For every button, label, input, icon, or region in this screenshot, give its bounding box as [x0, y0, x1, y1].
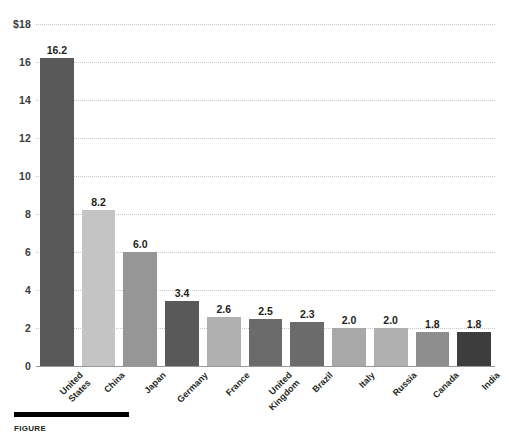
bar-slot: 8.2	[78, 24, 120, 366]
y-axis-tick-label: 16	[19, 56, 31, 68]
gridline	[36, 366, 495, 367]
y-axis-tick-label: 8	[25, 208, 31, 220]
x-axis-category-label: United Kingdom	[257, 370, 301, 414]
x-axis-category-label: Brazil	[299, 370, 336, 407]
x-axis-category-label: China	[90, 370, 127, 407]
x-axis-category-label: Germany	[173, 370, 210, 407]
bar-slot: 2.3	[286, 24, 328, 366]
bar-value-label: 2.3	[286, 308, 328, 320]
y-axis-tick-label: 14	[19, 94, 31, 106]
bar[interactable]	[374, 328, 408, 366]
bar-value-label: 8.2	[78, 196, 120, 208]
bar-value-label: 2.5	[245, 305, 287, 317]
x-axis-category-label: Canada	[424, 370, 461, 407]
bar-value-label: 16.2	[36, 44, 78, 56]
bar[interactable]	[290, 322, 324, 366]
bar-slot: 6.0	[119, 24, 161, 366]
bar-value-label: 2.0	[328, 314, 370, 326]
bar[interactable]	[332, 328, 366, 366]
bar[interactable]	[457, 332, 491, 366]
bar-slot: 16.2	[36, 24, 78, 366]
bar-slot: 2.0	[328, 24, 370, 366]
bar[interactable]	[165, 301, 199, 366]
y-axis-tick-label: 6	[25, 246, 31, 258]
y-axis-tick-label: 4	[25, 284, 31, 296]
y-axis-tick-label: 10	[19, 170, 31, 182]
x-axis-category-label: Japan	[132, 370, 169, 407]
y-axis-tick-label: 12	[19, 132, 31, 144]
bar[interactable]	[416, 332, 450, 366]
bar-slot: 2.6	[203, 24, 245, 366]
bar-value-label: 1.8	[412, 318, 454, 330]
bar[interactable]	[123, 252, 157, 366]
figure-caption: FIGURE	[14, 424, 494, 434]
x-axis-category-label: India	[465, 370, 502, 407]
bar[interactable]	[207, 317, 241, 366]
bar-slot: 1.8	[453, 24, 495, 366]
bars-group: 16.28.26.03.42.62.52.32.02.01.81.8	[36, 24, 495, 366]
bar-value-label: 2.0	[370, 314, 412, 326]
bar-slot: 3.4	[161, 24, 203, 366]
bar-value-label: 1.8	[453, 318, 495, 330]
figure-container: $181614121086420 16.28.26.03.42.62.52.32…	[0, 0, 509, 434]
bar[interactable]	[82, 210, 116, 366]
bar-slot: 2.0	[370, 24, 412, 366]
bar-value-label: 3.4	[161, 287, 203, 299]
caption-label: FIGURE	[14, 424, 46, 433]
bar-value-label: 6.0	[119, 238, 161, 250]
x-axis-category-label: Russia	[382, 370, 419, 407]
x-axis-category-label: United States	[48, 370, 92, 414]
y-axis-tick-label: 0	[25, 360, 31, 372]
x-axis-category-label: Italy	[340, 370, 377, 407]
chart-plot-area: $181614121086420 16.28.26.03.42.62.52.32…	[36, 24, 495, 366]
y-axis-tick-label: 2	[25, 322, 31, 334]
bar[interactable]	[40, 58, 74, 366]
bar[interactable]	[249, 319, 283, 367]
y-axis-tick-label: $18	[13, 18, 31, 30]
caption-rule	[14, 412, 129, 417]
x-axis-category-label: France	[215, 370, 252, 407]
bar-slot: 1.8	[412, 24, 454, 366]
bar-value-label: 2.6	[203, 303, 245, 315]
bar-slot: 2.5	[245, 24, 287, 366]
